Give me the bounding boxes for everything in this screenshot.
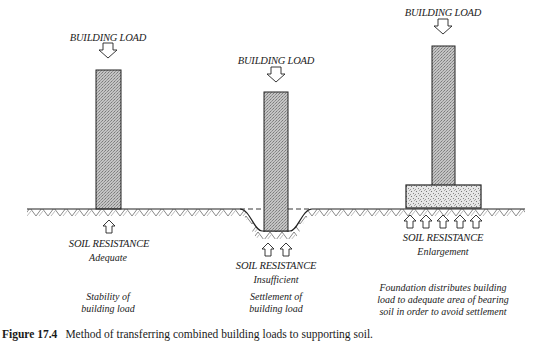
column	[432, 46, 455, 186]
resistance-arrow-icon	[454, 215, 466, 228]
description-line: Settlement of	[208, 291, 344, 303]
resistance-arrow-icon	[103, 220, 115, 233]
panel-enlargement	[330, 19, 525, 228]
resistance-arrow-icon	[470, 215, 482, 228]
description-line: building load	[40, 303, 176, 315]
soil-resistance-label: SOIL RESISTANCE	[384, 233, 502, 244]
panel-description: Stability of building load	[40, 291, 176, 315]
panel-adequate	[27, 43, 217, 233]
resistance-arrow-icon	[280, 243, 292, 256]
load-arrow-icon	[267, 67, 285, 82]
spread-footing	[406, 185, 481, 208]
description-line: building load	[208, 303, 344, 315]
column	[264, 92, 288, 231]
soil-resistance-qualifier: Insufficient	[226, 275, 326, 285]
panel-insufficient	[217, 67, 330, 256]
panel-description: Foundation distributes building load to …	[368, 282, 518, 318]
building-load-label: BUILDING LOAD	[393, 8, 493, 19]
description-line: Stability of	[40, 291, 176, 303]
soil-resistance-label: SOIL RESISTANCE	[50, 239, 168, 250]
column	[96, 70, 121, 209]
resistance-arrow-icon	[437, 215, 449, 228]
soil-resistance-label: SOIL RESISTANCE	[217, 261, 335, 272]
soil-hatch	[330, 209, 525, 216]
soil-resistance-qualifier: Adequate	[58, 253, 158, 263]
panel-description: Settlement of building load	[208, 291, 344, 315]
figure-caption: Figure 17.4Method of transferring combin…	[2, 328, 373, 340]
description-line: load to adequate area of bearing	[368, 294, 518, 306]
caption-text: Method of transferring combined building…	[65, 328, 373, 340]
soil-hatch	[27, 209, 217, 216]
resistance-arrow-icon	[404, 215, 416, 228]
load-arrow-icon	[434, 19, 452, 34]
resistance-arrow-icon	[420, 215, 432, 228]
description-line: soil in order to avoid settlement	[368, 306, 518, 318]
description-line: Foundation distributes building	[368, 282, 518, 294]
load-arrow-icon	[99, 43, 117, 58]
building-load-label: BUILDING LOAD	[58, 33, 158, 44]
resistance-arrow-icon	[262, 243, 274, 256]
building-load-label: BUILDING LOAD	[226, 56, 326, 67]
figure-number: Figure 17.4	[2, 328, 57, 340]
soil-resistance-qualifier: Enlargement	[393, 247, 493, 257]
